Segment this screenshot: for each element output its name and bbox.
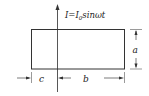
current-direction-arrow-icon	[56, 4, 60, 10]
arrow-left-icon	[58, 77, 63, 80]
straight-wire	[56, 4, 60, 92]
current-label: I=I0sinωt	[64, 10, 106, 21]
dimension-c: c	[17, 72, 44, 84]
arrow-right-icon	[26, 77, 31, 80]
arrow-up-icon	[135, 30, 138, 35]
dimension-b-label: b	[83, 74, 89, 84]
rectangular-loop	[32, 30, 125, 70]
arrow-right-icon	[119, 77, 124, 80]
dimension-b: b	[58, 72, 125, 84]
dimension-c-label: c	[39, 74, 44, 84]
arrow-down-icon	[135, 64, 138, 69]
dimension-a-label: a	[133, 45, 138, 55]
diagram-canvas: I=I0sinωt a c b	[0, 0, 149, 96]
dimension-a: a	[130, 30, 142, 70]
